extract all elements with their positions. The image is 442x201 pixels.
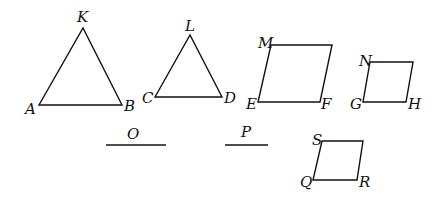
label-r: R xyxy=(358,173,370,191)
label-b: B xyxy=(123,97,135,115)
label-n: N xyxy=(358,52,373,70)
label-d: D xyxy=(223,89,236,107)
label-h: H xyxy=(407,95,422,113)
label-e: E xyxy=(245,95,257,113)
label-a: A xyxy=(23,100,36,118)
triangle-akb xyxy=(39,28,122,105)
label-p: P xyxy=(240,123,252,141)
label-c: C xyxy=(142,89,154,107)
parallelogram-mef xyxy=(258,45,332,102)
label-m: M xyxy=(257,34,274,52)
triangle-cld xyxy=(155,35,222,97)
label-l: L xyxy=(184,17,195,35)
label-o: O xyxy=(127,125,139,143)
label-s: S xyxy=(312,131,322,149)
label-g: G xyxy=(350,95,362,113)
geometry-diagram: K A B L C D M E F N G H O P S Q R xyxy=(0,0,442,201)
label-q: Q xyxy=(300,173,312,191)
label-f: F xyxy=(320,95,332,113)
label-k: K xyxy=(76,8,89,26)
